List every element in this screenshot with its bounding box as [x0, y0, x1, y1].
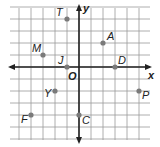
point-a: [100, 40, 105, 45]
point-label-j: J: [57, 54, 64, 66]
point-j: [64, 64, 69, 69]
point-f: [28, 112, 33, 117]
point-label-p: P: [142, 89, 150, 101]
points: TAMJDYPFC: [21, 6, 150, 126]
point-label-m: M: [32, 42, 42, 54]
point-d: [112, 64, 117, 69]
y-axis-label: y: [82, 2, 90, 14]
point-label-y: Y: [44, 87, 52, 99]
point-p: [136, 88, 141, 93]
x-axis-label: x: [147, 69, 155, 81]
point-m: [40, 52, 45, 57]
point-y: [52, 88, 57, 93]
point-label-t: T: [56, 6, 64, 18]
point-label-c: C: [82, 114, 90, 126]
point-label-a: A: [106, 30, 114, 42]
point-label-d: D: [118, 54, 126, 66]
y-axis-down-arrow-icon: [76, 137, 82, 144]
origin-label: O: [68, 70, 77, 82]
point-c: [76, 112, 81, 117]
y-axis-up-arrow-icon: [76, 4, 82, 11]
point-t: [64, 16, 69, 21]
grid-lines: [10, 7, 150, 140]
coordinate-plane: xyO TAMJDYPFC: [0, 0, 160, 147]
x-axis-left-arrow-icon: [8, 64, 15, 70]
